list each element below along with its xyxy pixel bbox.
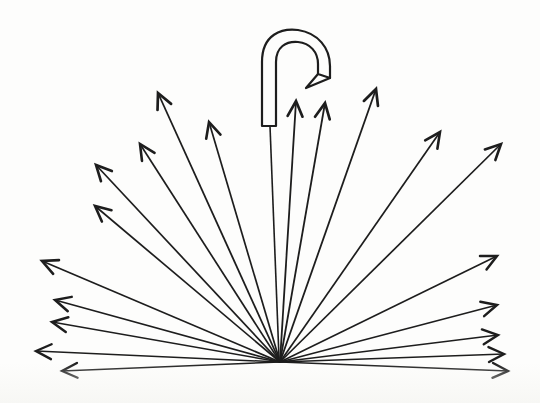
arrow-left-horizontal-lowest	[62, 362, 280, 378]
arrow-left-near-vertical	[206, 122, 280, 362]
arrow-head	[140, 144, 155, 161]
arrow-shaft	[52, 322, 280, 362]
arrow-right-horizontal-low	[280, 347, 504, 362]
arrow-shaft	[280, 305, 497, 362]
arrow-shaft	[209, 122, 280, 362]
arrow-shaft	[62, 362, 280, 371]
cane-hook-group	[262, 30, 330, 358]
arrow-left-shallow-lower	[52, 317, 280, 362]
arrow-left-diagonal-mid	[95, 206, 280, 362]
arrow-left-diagonal-low	[42, 260, 280, 362]
arrow-right-diagonal-high	[280, 144, 501, 362]
arrow-head	[425, 132, 440, 149]
figure-root: Radiating arrow fan with hooked cane	[0, 0, 540, 403]
arrow-left-shallow-upper	[55, 297, 280, 362]
arrow-shaft	[96, 165, 280, 362]
arrow-shaft	[95, 206, 280, 362]
arrow-rays-group	[36, 89, 508, 378]
radiating-arrow-fan-diagram	[0, 0, 540, 403]
arrow-right-shallow-upper	[280, 302, 497, 362]
arrow-shaft	[280, 132, 440, 362]
arrow-shaft	[280, 144, 501, 362]
cane-shaft	[270, 126, 279, 358]
arrow-right-steep-outer	[280, 132, 440, 362]
arrow-right-horizontal-lowest	[280, 362, 508, 378]
arrow-shaft	[42, 261, 280, 362]
arrow-center-vertical-left	[280, 101, 303, 362]
arrow-left-diagonal-high	[96, 165, 280, 362]
arrow-shaft	[280, 362, 508, 371]
